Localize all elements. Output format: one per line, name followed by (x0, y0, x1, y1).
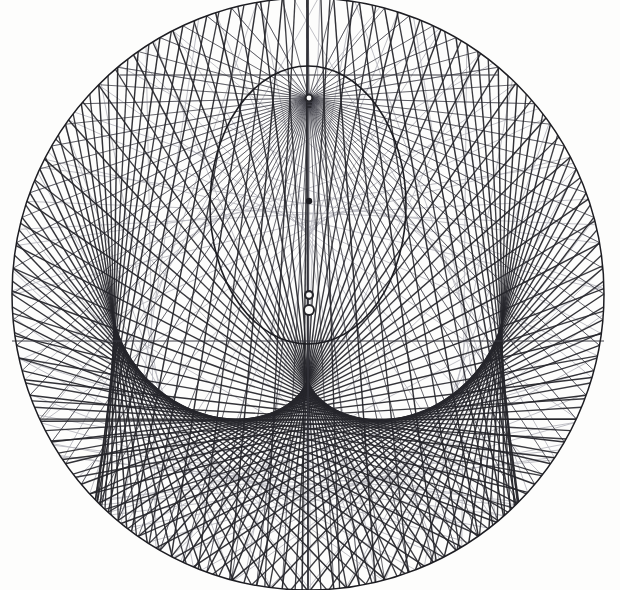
point-o-marker (304, 290, 314, 300)
figure-canvas (0, 0, 620, 590)
cusp-point-marker (306, 198, 312, 204)
caustic-diagram (0, 0, 620, 590)
point-O-marker (303, 304, 315, 316)
